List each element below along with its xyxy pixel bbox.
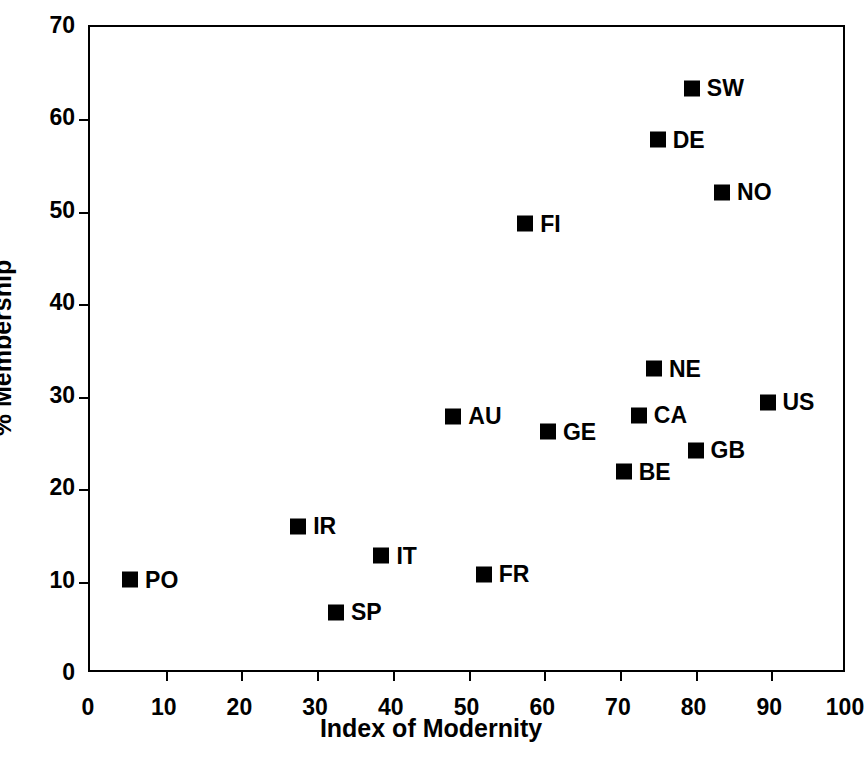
data-point-label: BE <box>639 460 671 483</box>
data-point-marker <box>122 572 138 588</box>
data-point: CA <box>631 404 687 427</box>
data-point: AU <box>445 405 501 428</box>
y-tick-mark <box>79 397 90 399</box>
data-point: NO <box>714 181 772 204</box>
y-tick-mark <box>79 212 90 214</box>
data-point-marker <box>646 361 662 377</box>
data-point-label: GB <box>711 439 746 462</box>
data-point: DE <box>650 128 705 151</box>
data-point-marker <box>760 394 776 410</box>
x-tick-mark <box>166 670 168 681</box>
x-tick-mark <box>317 670 319 681</box>
data-point-label: US <box>783 391 815 414</box>
data-point-label: SP <box>351 601 382 624</box>
y-tick-mark <box>79 304 90 306</box>
data-point-marker <box>373 548 389 564</box>
data-point-label: CA <box>654 404 687 427</box>
y-axis-title: % Membership <box>0 260 17 436</box>
data-point: IT <box>373 544 416 567</box>
y-tick-label: 60 <box>15 106 75 129</box>
data-point-marker <box>714 184 730 200</box>
data-point: GB <box>688 439 746 462</box>
x-tick-mark <box>544 670 546 681</box>
x-tick-mark <box>620 670 622 681</box>
data-point-marker <box>328 604 344 620</box>
x-tick-mark <box>393 670 395 681</box>
data-point-marker <box>540 424 556 440</box>
data-point-label: AU <box>468 405 501 428</box>
data-point-label: NO <box>737 181 772 204</box>
data-point-label: GE <box>563 420 596 443</box>
data-point: SW <box>684 77 744 100</box>
data-point-marker <box>684 80 700 96</box>
data-point: NE <box>646 357 701 380</box>
y-tick-label: 10 <box>15 569 75 592</box>
data-point-marker <box>616 464 632 480</box>
data-point-label: FR <box>499 563 530 586</box>
data-point: PO <box>122 568 178 591</box>
x-tick-mark <box>469 670 471 681</box>
data-point: GE <box>540 420 596 443</box>
data-point-label: NE <box>669 357 701 380</box>
y-tick-mark <box>79 119 90 121</box>
data-point-marker <box>290 518 306 534</box>
y-tick-label: 20 <box>15 476 75 499</box>
data-point: IR <box>290 515 336 538</box>
x-tick-mark <box>771 670 773 681</box>
x-tick-mark <box>241 670 243 681</box>
x-tick-mark <box>696 670 698 681</box>
data-point-label: SW <box>707 77 744 100</box>
data-point: SP <box>328 601 382 624</box>
data-point-label: IR <box>313 515 336 538</box>
data-point-label: DE <box>673 128 705 151</box>
data-point: BE <box>616 460 671 483</box>
y-tick-label: 70 <box>15 14 75 37</box>
data-point-label: PO <box>145 568 178 591</box>
data-point-marker <box>650 132 666 148</box>
data-point-marker <box>631 407 647 423</box>
data-point-marker <box>476 566 492 582</box>
y-tick-mark <box>79 489 90 491</box>
data-point-marker <box>517 216 533 232</box>
y-tick-label: 50 <box>15 199 75 222</box>
y-tick-label: 0 <box>15 661 75 684</box>
x-axis-title: Index of Modernity <box>0 714 862 743</box>
data-point-label: IT <box>396 544 416 567</box>
data-point: FI <box>517 212 560 235</box>
data-point-marker <box>688 442 704 458</box>
y-tick-mark <box>79 582 90 584</box>
y-tick-label: 40 <box>15 291 75 314</box>
y-tick-label: 30 <box>15 384 75 407</box>
data-point-marker <box>445 408 461 424</box>
data-point: FR <box>476 563 530 586</box>
plot-area: POIRSPITAUFRFIGEBECANEDESWGBNOUS <box>88 25 845 672</box>
data-point-label: FI <box>540 212 560 235</box>
data-point: US <box>760 391 815 414</box>
